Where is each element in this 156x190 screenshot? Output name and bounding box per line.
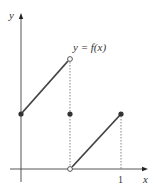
x-tick-label-1: 1 [118,174,123,185]
closed-point-right-end [118,111,123,116]
segment-right [72,114,121,167]
open-point-right-start [68,167,73,172]
segment-left [21,61,68,114]
function-graph: y x 1 y = f(x) [0,0,156,190]
x-axis-arrow-icon [142,167,148,171]
x-axis-label: x [142,173,148,185]
open-point-left-end [68,57,73,62]
function-label: y = f(x) [72,41,106,54]
closed-point-isolated [67,111,72,116]
y-axis-label: y [8,9,14,21]
closed-point-left-start [18,111,23,116]
y-axis-arrow-icon [19,13,23,19]
